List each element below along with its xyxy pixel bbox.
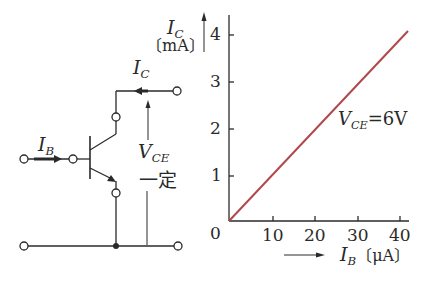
collector-terminal [112, 87, 181, 121]
ic-label: IC [133, 58, 150, 81]
y-tick-label: 2 [210, 120, 221, 137]
ib-label: IB [38, 135, 54, 158]
x-tick-label: 10 [262, 227, 284, 244]
series-annotation: VCE=6V [338, 110, 407, 131]
junction-dot [113, 243, 119, 249]
y-tick-label: 4 [210, 26, 221, 43]
y-axis-label-unit: 〔mA〕 [146, 38, 205, 54]
y-tick-label: 1 [211, 167, 222, 184]
x-axis-label: IB〔μA〕 [340, 245, 410, 268]
x-tick-label: 20 [304, 227, 326, 244]
origin-label: 0 [210, 225, 221, 242]
vce-constant-note: 一定 [139, 171, 177, 190]
emitter-common-line [20, 189, 182, 250]
y-tick-label: 3 [210, 73, 221, 90]
x-tick-label: 40 [389, 227, 411, 244]
transistor-current-transfer-figure: IB IC VCE 一定 IC 〔mA〕 4 3 2 1 0 10 20 30 … [0, 0, 426, 283]
emitter-arrow-icon [107, 175, 116, 182]
vce-label: VCE [138, 142, 169, 165]
npn-transistor-icon [90, 121, 116, 189]
chart [202, 12, 410, 258]
ic-arrow-icon [134, 87, 142, 95]
base-input-terminal [20, 155, 90, 163]
x-tick-label: 30 [347, 227, 369, 244]
x-label-arrow-icon [284, 253, 325, 258]
vce-arrow-icon [146, 100, 151, 108]
